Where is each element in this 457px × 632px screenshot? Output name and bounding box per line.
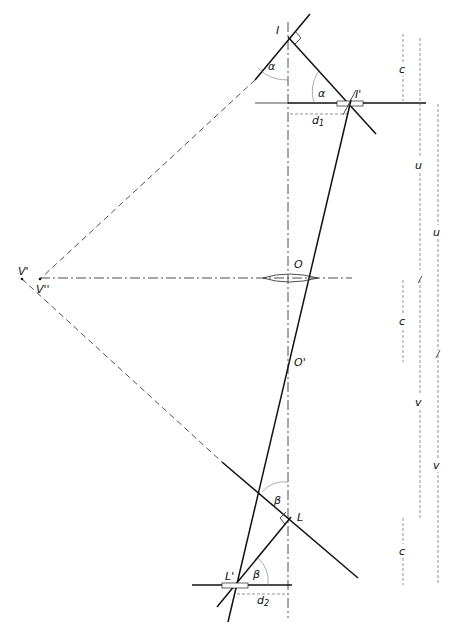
label-d1: d1 (312, 114, 324, 128)
mirror-line-upper-extension (40, 80, 255, 279)
long-ray (228, 100, 351, 622)
label-c-mid: c (399, 315, 405, 328)
label-l-prime: L' (225, 570, 234, 583)
label-i: I (276, 24, 279, 37)
label-o-prime: O' (294, 356, 306, 369)
label-v-prime: V' (18, 265, 29, 278)
label-beta-bottom: β (252, 568, 260, 581)
label-l: L (297, 511, 303, 524)
label-v-inner: v (415, 396, 422, 409)
ray-l-to-l-prime (217, 517, 291, 607)
mirror-line-upper (255, 14, 310, 80)
label-c-top: c (399, 63, 405, 76)
label-u-outer: u (433, 226, 440, 239)
label-i-prime: I' (355, 88, 361, 101)
label-d2: d2 (257, 594, 269, 608)
label-alpha-mid: α (318, 87, 326, 100)
mirror-line-lower-extension (22, 279, 222, 462)
ray-i-to-i-prime (288, 37, 376, 134)
label-v-double-prime: V'' (36, 283, 50, 296)
label-c-bottom: c (399, 545, 405, 558)
point-v-double-prime (39, 278, 42, 281)
beta-arc-top (262, 482, 288, 492)
detector-bottom (222, 583, 248, 588)
label-o: O (294, 258, 303, 271)
label-alpha-top: α (268, 60, 276, 73)
label-v-outer: v (433, 459, 440, 472)
right-angle-marker-top (295, 31, 301, 44)
point-v-prime (21, 278, 24, 281)
label-beta-top: β (273, 494, 281, 507)
optics-diagram: I I' O O' L L' V' V'' α α β β d1 d2 c u … (0, 0, 457, 632)
label-u-inner: u (415, 159, 422, 172)
